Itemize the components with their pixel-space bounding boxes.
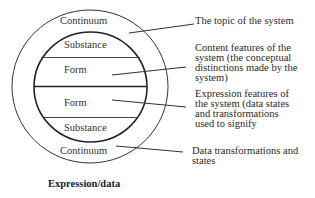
annotation-topic: The topic of the system [195, 16, 294, 26]
form-bottom-label: Form [64, 98, 87, 108]
leader-data [116, 146, 183, 152]
leader-expression [112, 100, 186, 107]
diagram-caption: Expression/data [48, 178, 120, 189]
outer-bottom-label: Continuum [60, 146, 107, 156]
annotation-content: Content features of the system (the conc… [195, 43, 297, 83]
annotation-line: used to signify [195, 119, 289, 129]
outer-top-label: Continuum [60, 16, 107, 26]
annotation-line: system) [195, 73, 297, 83]
annotation-data: Data transformations and states [192, 146, 298, 166]
inner-top-label: Substance [64, 40, 107, 50]
annotation-expression: Expression features of the system (data … [195, 89, 289, 129]
form-top-label: Form [64, 65, 87, 75]
annotation-line: The topic of the system [195, 16, 294, 26]
annotation-line: states [192, 156, 298, 166]
leader-topic [129, 24, 194, 33]
leader-content [112, 67, 186, 75]
inner-bottom-label: Substance [64, 123, 107, 133]
